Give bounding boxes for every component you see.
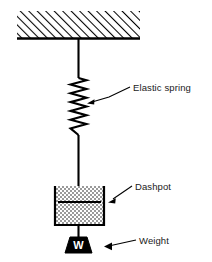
- spring-dashpot-diagram: W Elastic spring Dashpot Weight: [0, 0, 212, 262]
- elastic-spring-label: Elastic spring: [133, 82, 191, 93]
- ceiling-hatch-fill: [17, 11, 140, 38]
- elastic-spring-arrowhead: [87, 99, 95, 104]
- diagram-canvas: W Elastic spring Dashpot Weight: [0, 0, 212, 262]
- elastic-spring-leader-line: [92, 87, 130, 102]
- weight-letter-w: W: [73, 239, 84, 251]
- annotation-dashpot: Dashpot: [108, 181, 171, 204]
- dashpot: [55, 186, 104, 225]
- elastic-spring: [71, 78, 87, 135]
- ceiling-support: [17, 11, 140, 39]
- weight-arrowhead: [104, 243, 112, 251]
- weight-leader-line: [111, 240, 136, 246]
- dashpot-leader-line: [113, 186, 132, 199]
- dashpot-fluid-fill: [56, 186, 103, 224]
- weight-block: W: [65, 237, 92, 253]
- dashpot-arrowhead: [108, 198, 116, 203]
- annotation-elastic-spring: Elastic spring: [87, 82, 191, 105]
- annotation-weight: Weight: [104, 235, 169, 250]
- weight-label: Weight: [139, 235, 169, 246]
- dashpot-label: Dashpot: [135, 181, 171, 192]
